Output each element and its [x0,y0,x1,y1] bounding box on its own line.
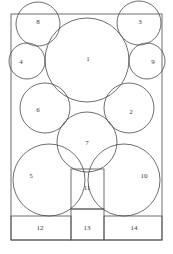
region-label-9: 9 [151,59,155,66]
region-label-7: 7 [85,140,89,147]
region-label-4: 4 [19,59,23,66]
circle-packing-figure: 1234567891011121314 [0,0,173,254]
region-label-1: 1 [86,56,90,63]
region-label-11: 11 [84,185,91,192]
packed-circle-9 [129,43,165,79]
region-label-2: 2 [129,109,133,116]
packed-circle-4 [9,43,45,79]
region-label-14: 14 [131,225,138,232]
region-label-5: 5 [29,173,33,180]
region-label-12: 12 [37,225,44,232]
packed-circle-10 [88,144,160,216]
packed-circle-6 [20,83,70,133]
container-rectangle-group [11,14,162,240]
region-label-13: 13 [84,225,91,232]
region-label-8: 8 [36,19,40,26]
packed-circle-5 [13,144,85,216]
region-label-6: 6 [36,107,40,114]
container-boundary [11,14,162,240]
packing-diagram-svg [0,0,173,254]
region-label-10: 10 [141,173,148,180]
region-label-3: 3 [138,19,142,26]
